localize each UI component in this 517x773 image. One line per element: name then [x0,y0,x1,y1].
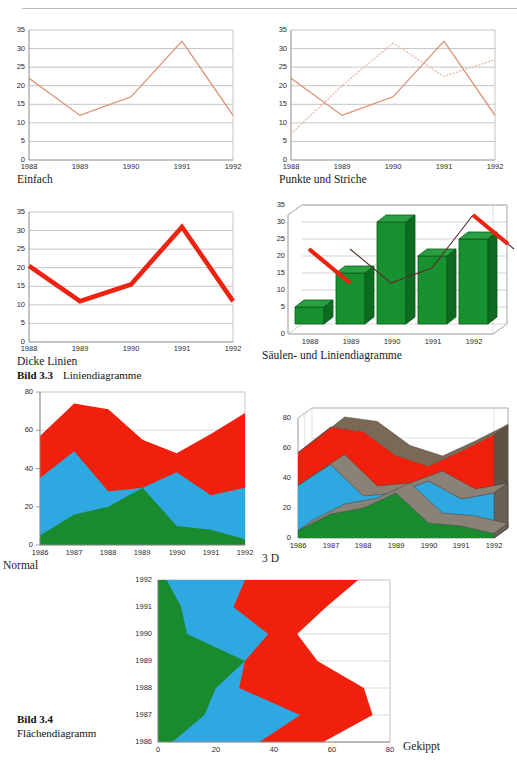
x-tick-gekippt: 40 [262,746,286,754]
y-tick-dreid: 0 [266,534,291,542]
bar-1988-saeulen [295,300,333,324]
y-tick-dicke: 20 [0,264,25,272]
y-tick-einfach: 20 [0,82,25,90]
y-tick-einfach: 5 [0,137,25,145]
y-tick-normal: 0 [8,541,33,549]
x-tick-dicke: 1990 [115,345,147,353]
x-tick-saeulen: 1990 [375,338,409,346]
y-tick-einfach: 15 [0,100,25,108]
x-tick-normal: 1986 [24,549,56,557]
y-tick-gekippt: 1989 [124,657,152,665]
y-tick-normal: 60 [8,426,33,434]
x-tick-gekippt: 20 [204,746,228,754]
figure-number-3-3: Bild 3.3 [17,369,53,381]
y-tick-dicke: 30 [0,227,25,235]
x-tick-dicke: 1989 [64,345,96,353]
y-tick-saeulen: 10 [262,286,285,294]
x-tick-gekippt: 80 [378,746,402,754]
y-tick-dicke: 25 [0,245,25,253]
series-line-1-dicke [29,227,233,301]
chart-panel-gekippt: 1992 1991 1990 1989 1988 1987 1986 0 20 … [128,572,418,767]
y-tick-punkte: 35 [262,26,287,34]
y-tick-punkte: 10 [262,119,287,127]
y-tick-dicke: 5 [0,319,25,327]
x-tick-einfach: 1988 [13,163,45,171]
bar-1992-saeulen [459,232,497,324]
panel-label-gekippt: Gekippt [403,740,440,752]
y-tick-dicke: 35 [0,208,25,216]
y-tick-gekippt: 1991 [124,603,152,611]
chart-normal [0,383,250,558]
figure-number-3-4: Bild 3.4 [17,713,53,725]
x-tick-punkte: 1990 [377,163,409,171]
panel-label-punkte: Punkte und Striche [279,173,367,185]
y-tick-saeulen: 30 [262,218,285,226]
y-tick-einfach: 30 [0,45,25,53]
y-tick-punkte: 20 [262,82,287,90]
chart-panel-einfach: 35 30 25 20 15 10 5 0 1988 1989 1990 199… [0,18,250,188]
panel-label-normal: Normal [3,559,38,571]
chart-panel-punkte: 35 30 25 20 15 10 5 0 1988 1989 1990 199… [262,18,512,188]
x-tick-dreid: 1992 [478,542,510,550]
y-tick-saeulen: 5 [262,303,285,311]
x-tick-gekippt: 0 [146,746,170,754]
x-tick-einfach: 1989 [64,163,96,171]
y-tick-einfach: 10 [0,119,25,127]
y-tick-einfach: 25 [0,63,25,71]
y-tick-normal: 40 [8,465,33,473]
x-tick-punkte: 1991 [428,163,460,171]
x-tick-dreid: 1991 [445,542,477,550]
y-tick-saeulen: 0 [262,330,285,338]
y-tick-saeulen: 20 [262,252,285,260]
chart-saeulen [262,200,514,372]
y-tick-normal: 80 [8,388,33,396]
x-tick-dreid: 1988 [347,542,379,550]
y-tick-einfach: 35 [0,26,25,34]
x-tick-saeulen: 1992 [457,338,491,346]
y-tick-gekippt: 1988 [124,684,152,692]
y-tick-punkte: 25 [262,63,287,71]
bar-1990-saeulen [377,215,415,324]
figure-caption-3-3: Bild 3.3Liniendiagramme [17,369,141,381]
y-tick-saeulen: 35 [262,201,285,209]
series-line-2-punkte [291,43,495,134]
page-root: 35 30 25 20 15 10 5 0 1988 1989 1990 199… [0,0,517,773]
x-tick-normal: 1988 [92,549,124,557]
y-tick-punkte: 5 [262,137,287,145]
y-tick-gekippt: 1990 [124,630,152,638]
x-tick-einfach: 1991 [166,163,198,171]
figure-title-3-4: Flächendiagramm [17,727,96,739]
page-top-rule [22,8,517,9]
x-tick-dreid: 1990 [413,542,445,550]
y-tick-dicke: 10 [0,301,25,309]
x-tick-punkte: 1988 [275,163,307,171]
x-tick-punkte: 1989 [326,163,358,171]
panel-label-dicke: Dicke Linien [17,355,77,367]
x-tick-normal: 1990 [161,549,193,557]
y-tick-punkte: 15 [262,100,287,108]
y-tick-gekippt: 1992 [124,576,152,584]
chart-panel-saeulen: 35 30 25 20 15 10 5 0 1988 1989 1990 199… [262,200,514,372]
y-tick-normal: 20 [8,503,33,511]
gridlines-punkte [291,30,495,160]
x-tick-einfach: 1992 [217,163,249,171]
figure-title-wrap-3-4: Flächendiagramm [17,727,96,739]
y-tick-saeulen: 15 [262,269,285,277]
chart-gekippt [128,572,418,767]
x-tick-normal: 1991 [195,549,227,557]
x-tick-dreid: 1989 [380,542,412,550]
figure-caption-3-4: Bild 3.4 [17,713,53,725]
x-tick-saeulen: 1988 [293,338,327,346]
y-tick-punkte: 30 [262,45,287,53]
x-tick-gekippt: 60 [320,746,344,754]
x-tick-dreid: 1987 [315,542,347,550]
panel-label-saeulen: Säulen- und Liniendiagramme [262,349,402,361]
x-tick-normal: 1992 [229,549,261,557]
panel-label-einfach: Einfach [17,173,53,185]
x-tick-dicke: 1991 [166,345,198,353]
y-tick-dreid: 40 [266,474,291,482]
x-tick-punkte: 1992 [479,163,511,171]
figure-title-3-3: Liniendiagramme [63,369,141,381]
x-tick-dicke: 1992 [217,345,249,353]
y-tick-dreid: 20 [266,504,291,512]
